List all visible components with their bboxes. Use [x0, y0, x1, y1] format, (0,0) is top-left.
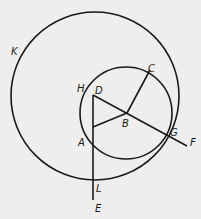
- label-h: H: [77, 83, 85, 94]
- label-c: C: [148, 63, 155, 74]
- label-d: D: [95, 85, 103, 96]
- label-l: L: [96, 183, 102, 194]
- label-a: A: [77, 137, 85, 148]
- geometry-figure: K H D C B A G F L E: [0, 0, 201, 219]
- label-e: E: [95, 203, 102, 214]
- label-b: B: [122, 118, 129, 129]
- label-g: G: [170, 127, 178, 138]
- label-k: K: [11, 46, 19, 57]
- line-bc: [127, 70, 150, 113]
- label-f: F: [190, 137, 196, 148]
